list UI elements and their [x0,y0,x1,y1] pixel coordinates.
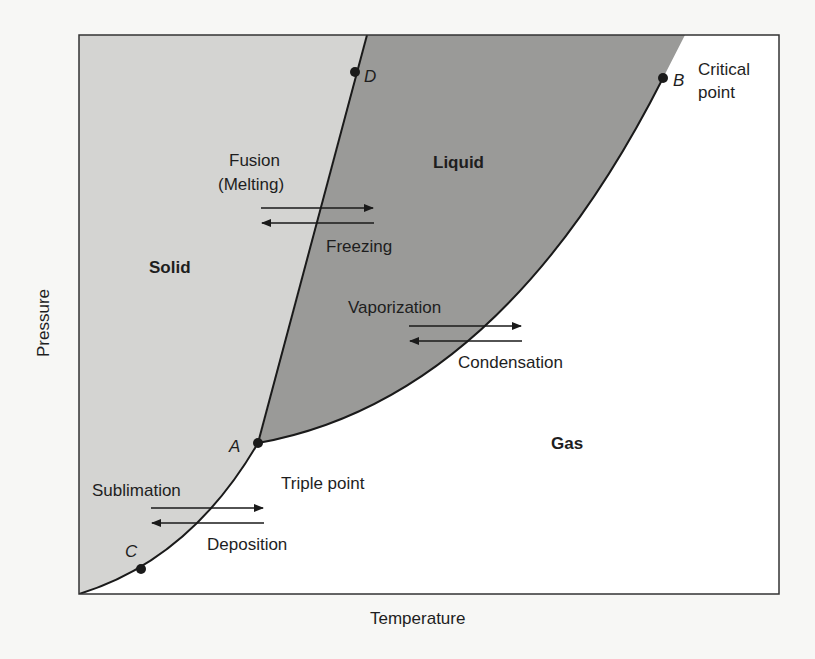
sublimation-label: Sublimation [92,481,181,500]
liquid-label: Liquid [433,153,484,172]
critical-point-label-line1: Critical [698,60,750,79]
triple-point-label: Triple point [281,474,365,493]
fusion-label: Fusion [229,151,280,170]
point-a-marker [253,438,263,448]
phase-diagram: A B C D Triple point Critical point Soli… [0,0,815,659]
point-b-marker [658,73,668,83]
x-axis-label: Temperature [370,609,465,628]
y-axis-label: Pressure [34,289,53,357]
point-b-label: B [673,71,684,90]
point-c-marker [136,564,146,574]
gas-label: Gas [551,434,583,453]
vaporization-label: Vaporization [348,298,441,317]
point-a-label: A [228,437,240,456]
condensation-label: Condensation [458,353,563,372]
point-c-label: C [125,542,138,561]
point-d-marker [350,67,360,77]
freezing-label: Freezing [326,237,392,256]
solid-label: Solid [149,258,191,277]
melting-label: (Melting) [218,175,284,194]
point-d-label: D [364,67,376,86]
critical-point-label-line2: point [698,83,735,102]
deposition-label: Deposition [207,535,287,554]
